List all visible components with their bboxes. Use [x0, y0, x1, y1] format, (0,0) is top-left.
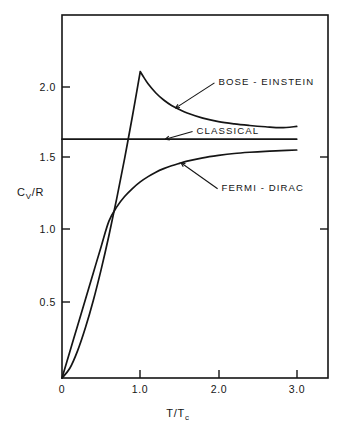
curve-label-fermi-dirac: FERMI - DIRAC [222, 182, 305, 193]
curve-label-classical: CLASSICAL [197, 125, 260, 136]
chart-figure: 2.0 1.5 1.0 0.5 0 1.0 2.0 3.0 CV/R T/Tc … [0, 0, 344, 426]
y-axis-title: CV/R [17, 186, 44, 201]
x-axis-title-sub: c [185, 413, 190, 422]
curve-label-bose-einstein: BOSE - EINSTEIN [218, 76, 314, 87]
x-ticklabel-0: 0 [59, 383, 65, 395]
x-ticklabel-3-0: 3.0 [289, 383, 305, 395]
leader-line [181, 163, 218, 189]
y-axis-title-main: C [17, 186, 26, 198]
plot-frame [62, 15, 328, 378]
y-ticklabel-2-0: 2.0 [40, 81, 56, 93]
y-ticklabel-1-5: 1.5 [40, 151, 56, 163]
curve-bose-einstein [62, 72, 297, 378]
leader-line [165, 131, 192, 139]
x-ticklabel-1-0: 1.0 [132, 383, 148, 395]
y-ticklabel-0-5: 0.5 [40, 296, 56, 308]
chart-svg: 2.0 1.5 1.0 0.5 0 1.0 2.0 3.0 CV/R T/Tc … [0, 0, 344, 426]
y-axis-title-rest: /R [32, 186, 44, 198]
leader-line [175, 83, 214, 108]
x-ticklabel-2-0: 2.0 [211, 383, 227, 395]
x-axis-ticks [140, 370, 297, 378]
x-axis-title: T/Tc [166, 407, 189, 422]
x-axis-title-main: T/T [166, 407, 185, 419]
y-ticklabel-1-0: 1.0 [40, 223, 56, 235]
